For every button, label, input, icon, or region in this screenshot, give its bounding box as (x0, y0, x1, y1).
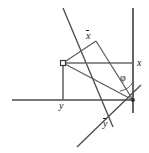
rectangle-right-side (96, 41, 133, 100)
rotated-axes-figure: x y x y φ (0, 0, 149, 153)
label-y-bar: y (103, 118, 107, 129)
label-x-bar-text: x (86, 30, 90, 41)
upper-diagonal-line (63, 41, 96, 63)
label-y: y (59, 101, 63, 111)
figure-canvas (0, 0, 149, 153)
label-y-bar-text: y (103, 118, 107, 129)
right-vertex-marker (131, 98, 135, 102)
label-phi: φ (120, 73, 126, 83)
label-x-bar: x (86, 30, 90, 41)
y-bar-axis-line (77, 85, 141, 147)
origin-marker (61, 61, 66, 66)
label-x: x (137, 58, 141, 68)
